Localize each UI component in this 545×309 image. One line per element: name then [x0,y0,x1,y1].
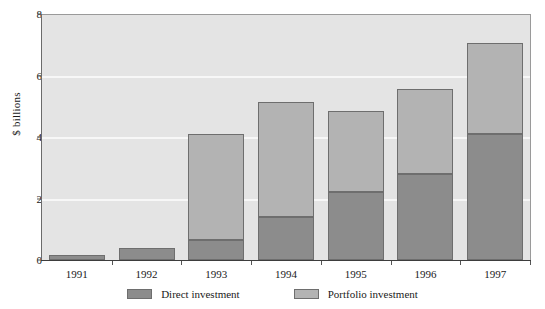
legend-item: Portfolio investment [294,288,418,300]
bar-segment [188,134,244,240]
bar-segment [467,43,523,134]
x-tick-label: 1997 [484,268,506,280]
bar-segment [119,248,175,260]
legend-swatch [294,289,319,299]
legend-label: Direct investment [161,288,240,300]
legend-label: Portfolio investment [328,288,418,300]
bar-group [119,14,175,260]
x-tick-label: 1992 [136,268,158,280]
bar-segment [467,134,523,260]
x-tick-label: 1995 [345,268,367,280]
bar-segment [328,192,384,260]
bar-segment [188,240,244,260]
bar-segment [397,89,453,174]
stacked-bar-chart: $ billions 02468 19911992199319941995199… [0,0,545,309]
chart-legend: Direct investmentPortfolio investment [0,288,545,300]
x-axis-line [41,260,531,261]
bar-group [397,14,453,260]
bar-group [258,14,314,260]
bar-group [328,14,384,260]
x-tick-label: 1993 [205,268,227,280]
legend-swatch [127,289,152,299]
bar-group [467,14,523,260]
x-tick-mark [530,261,531,265]
y-axis: $ billions 02468 [0,0,42,309]
bar-segment [397,174,453,260]
x-tick-mark [391,261,392,265]
bar-segment [258,102,314,217]
x-tick-mark [251,261,252,265]
bar-group [49,14,105,260]
x-tick-label: 1991 [66,268,88,280]
x-tick-mark [460,261,461,265]
legend-item: Direct investment [127,288,240,300]
bar-segment [49,255,105,260]
x-tick-label: 1994 [275,268,297,280]
bar-segment [258,217,314,260]
bar-segment [328,111,384,192]
bar-group [188,14,244,260]
x-tick-mark [112,261,113,265]
x-tick-mark [181,261,182,265]
x-tick-label: 1996 [414,268,436,280]
x-tick-mark [321,261,322,265]
